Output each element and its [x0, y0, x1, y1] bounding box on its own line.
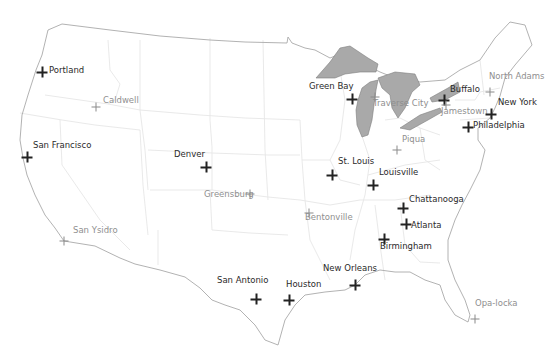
- city-label-san-antonio: San Antonio: [217, 276, 268, 286]
- city-marker-atlanta[interactable]: [401, 219, 412, 230]
- city-label-new-orleans: New Orleans: [323, 264, 377, 274]
- city-label-birmingham: Birmingham: [380, 242, 432, 252]
- city-marker-san-antonio[interactable]: [251, 294, 262, 305]
- city-label-st-louis: St. Louis: [338, 157, 374, 167]
- city-label-denver: Denver: [174, 150, 205, 160]
- city-label-jamestown: Jamestown: [441, 107, 488, 117]
- lake-superior: [316, 46, 378, 78]
- city-label-caldwell: Caldwell: [103, 96, 139, 106]
- city-label-philadelphia: Philadelphia: [473, 121, 525, 131]
- city-marker-north-adams[interactable]: [486, 88, 495, 97]
- us-outline: [20, 22, 532, 345]
- city-marker-philadelphia[interactable]: [463, 122, 474, 133]
- city-label-north-adams: North Adams: [489, 72, 544, 82]
- city-label-san-ysidro: San Ysidro: [73, 226, 118, 236]
- us-map: [0, 0, 550, 359]
- city-label-portland: Portland: [49, 66, 84, 76]
- city-label-louisville: Louisville: [379, 168, 418, 178]
- city-marker-chattanooga[interactable]: [398, 203, 409, 214]
- city-label-opa-locka: Opa-locka: [475, 299, 518, 309]
- city-marker-houston[interactable]: [284, 295, 295, 306]
- city-marker-louisville[interactable]: [368, 180, 379, 191]
- city-label-atlanta: Atlanta: [411, 221, 442, 231]
- city-label-greensburg: Greensburg: [204, 190, 254, 200]
- city-label-chattanooga: Chattanooga: [409, 195, 464, 205]
- city-label-piqua: Piqua: [402, 135, 425, 145]
- city-marker-new-york[interactable]: [486, 109, 497, 120]
- lake-huron: [378, 72, 420, 118]
- city-marker-san-francisco[interactable]: [22, 152, 33, 163]
- city-marker-piqua[interactable]: [393, 146, 402, 155]
- city-label-traverse-city: Traverse City: [373, 99, 428, 109]
- city-marker-denver[interactable]: [201, 162, 212, 173]
- city-label-houston: Houston: [286, 280, 321, 290]
- city-marker-green-bay[interactable]: [347, 94, 358, 105]
- city-marker-new-orleans[interactable]: [350, 280, 361, 291]
- city-marker-caldwell[interactable]: [92, 103, 101, 112]
- city-label-buffalo: Buffalo: [450, 85, 480, 95]
- city-label-new-york: New York: [498, 98, 537, 108]
- city-marker-san-ysidro[interactable]: [60, 237, 69, 246]
- city-marker-opa-locka[interactable]: [471, 315, 480, 324]
- lake-erie: [400, 108, 442, 130]
- city-marker-st-louis[interactable]: [327, 170, 338, 181]
- city-label-san-francisco: San Francisco: [33, 141, 91, 151]
- city-label-green-bay: Green Bay: [309, 82, 354, 92]
- city-marker-portland[interactable]: [37, 67, 48, 78]
- city-label-bentonville: Bentonville: [305, 213, 353, 223]
